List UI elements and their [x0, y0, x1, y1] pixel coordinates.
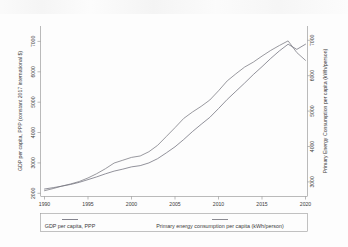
x-axis: 1990 1995 2000 2005 2010 2015 2020: [39, 197, 311, 207]
legend-label-gdp: GDP per capita, PPP: [45, 223, 96, 229]
chart-figure: 2000 3000 4000 5000 6000 7000 GDP per ca…: [0, 0, 348, 247]
right-tick-label: 7000: [309, 34, 315, 45]
x-tick-label: 1990: [39, 201, 50, 207]
left-tick-label: 3000: [30, 157, 36, 168]
x-axis-ticks: [45, 197, 306, 200]
left-axis: 2000 3000 4000 5000 6000 7000 GDP per ca…: [17, 26, 41, 199]
series-line-energy-per-capita: [45, 41, 306, 191]
legend: GDP per capita, PPP Primary energy consu…: [41, 214, 308, 232]
series-line-gdp-per-capita: [45, 44, 306, 189]
legend-item-gdp[interactable]: GDP per capita, PPP: [45, 220, 96, 229]
left-axis-tick-labels: 2000 3000 4000 5000 6000 7000: [30, 36, 36, 199]
right-axis-tick-labels: 3000 4000 5000 6000 7000: [309, 34, 315, 187]
right-axis: 3000 4000 5000 6000 7000 Primary Energy …: [308, 26, 329, 196]
right-tick-label: 5000: [309, 105, 315, 116]
right-tick-label: 4000: [309, 141, 315, 152]
x-tick-label: 2015: [256, 201, 267, 207]
x-axis-tick-labels: 1990 1995 2000 2005 2010 2015 2020: [39, 201, 311, 207]
dual-axis-line-chart: 2000 3000 4000 5000 6000 7000 GDP per ca…: [0, 0, 348, 247]
x-tick-label: 2000: [126, 201, 137, 207]
x-tick-label: 2020: [300, 201, 311, 207]
right-tick-label: 3000: [309, 176, 315, 187]
left-tick-label: 6000: [30, 66, 36, 77]
left-tick-label: 4000: [30, 127, 36, 138]
x-tick-label: 2010: [213, 201, 224, 207]
legend-item-energy[interactable]: Primary energy consumption per capita (k…: [156, 220, 284, 229]
right-tick-label: 6000: [309, 70, 315, 81]
plot-area: [45, 41, 306, 191]
left-axis-ticks: [38, 41, 41, 193]
left-tick-label: 5000: [30, 96, 36, 107]
legend-label-energy: Primary energy consumption per capita (k…: [156, 223, 284, 229]
scan-artifact-band: [0, 0, 348, 14]
x-tick-label: 2005: [169, 201, 180, 207]
right-axis-title: Primary Energy Consumption per capita (k…: [322, 48, 328, 173]
x-tick-label: 1995: [82, 201, 93, 207]
left-tick-label: 7000: [30, 36, 36, 47]
left-axis-title: GDP per capita, PPP (constant 2017 inter…: [17, 51, 23, 171]
left-tick-label: 2000: [30, 187, 36, 198]
